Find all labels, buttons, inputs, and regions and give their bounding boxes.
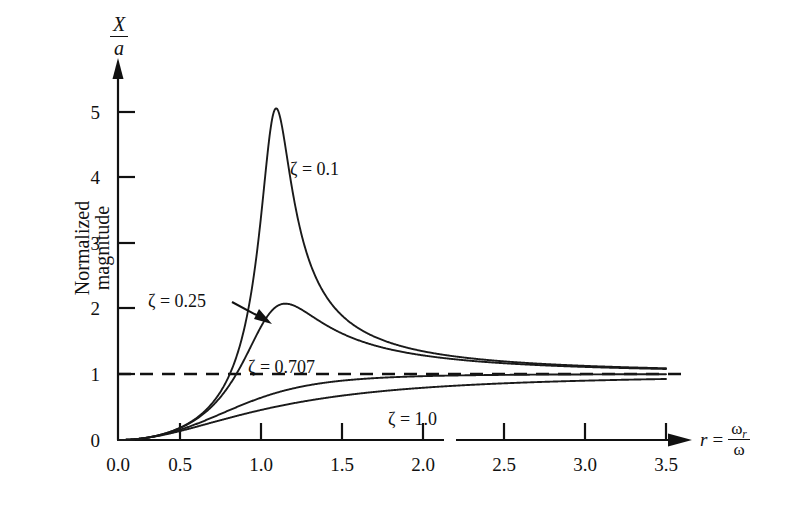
x-tick-label-0-0: 0.0 — [106, 455, 130, 474]
x-axis-title-variable: r — [700, 430, 707, 449]
x-tick-label-1-0: 1.0 — [249, 455, 273, 474]
curve-label-zeta-0-707: ζ = 0.707 — [248, 358, 315, 376]
y-tick-label-2: 2 — [78, 299, 100, 318]
plot-area — [0, 0, 798, 513]
curve-label-zeta-1-0: ζ = 1.0 — [388, 410, 437, 428]
x-tick-label-2-0: 2.0 — [411, 455, 435, 474]
x-axis-arrowhead — [668, 434, 692, 447]
x-tick-label-0-5: 0.5 — [168, 455, 192, 474]
x-tick-label-2-5: 2.5 — [492, 455, 516, 474]
y-tick-label-1: 1 — [78, 365, 100, 384]
x-axis-title: r = ωr ω — [700, 420, 750, 459]
curve-group — [118, 108, 666, 440]
annotation-leader-zeta-0-25 — [232, 302, 272, 324]
response-curve-zeta-0-707 — [118, 374, 666, 440]
y-tick-label-0: 0 — [78, 431, 100, 450]
x-axis-title-fraction: ωr ω — [728, 420, 750, 459]
y-axis-title-numerator: X — [110, 14, 128, 37]
curve-label-zeta-0-25: ζ = 0.25 — [148, 292, 206, 310]
x-axis-title-numerator: ωr — [728, 420, 750, 440]
x-tick-label-3-5: 3.5 — [654, 455, 678, 474]
omega-symbol: ω — [731, 419, 742, 438]
x-axis-title-denominator: ω — [728, 440, 750, 459]
curve-label-zeta-0-1: ζ = 0.1 — [290, 160, 339, 178]
x-tick-label-3-0: 3.0 — [573, 455, 597, 474]
y-axis-arrowhead — [113, 58, 124, 79]
y-axis-title-fraction: X a — [110, 14, 128, 59]
y-tick-label-3: 3 — [78, 234, 100, 253]
x-tick-label-1-5: 1.5 — [330, 455, 354, 474]
y-tick-label-5: 5 — [78, 103, 100, 122]
x-axis-title-equals: = — [712, 430, 723, 449]
y-axis-title-denominator: a — [110, 37, 128, 59]
axis-lines — [113, 58, 693, 447]
y-tick-label-4: 4 — [78, 168, 100, 187]
y-axis-ticks — [118, 112, 135, 374]
y-axis-title: X a — [96, 14, 142, 59]
figure-rotating-unbalance-frequency-response: X a Normalized magnitude 0 1 2 3 4 5 0.0… — [0, 0, 798, 513]
